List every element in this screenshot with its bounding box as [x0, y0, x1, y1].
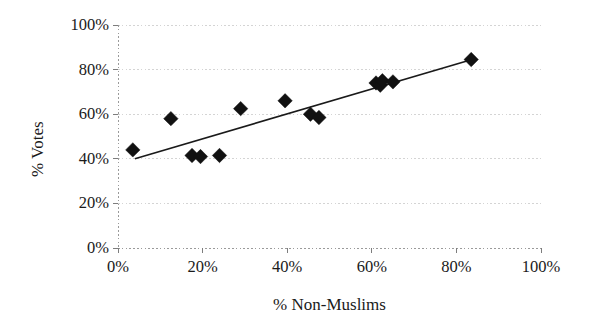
- scatter-chart: 0%20%40%60%80%100% 0%20%40%60%80%100% % …: [0, 0, 592, 327]
- data-point-marker: [464, 52, 478, 66]
- trend-line: [135, 58, 476, 158]
- data-markers: [126, 52, 479, 163]
- trend-line-path: [135, 58, 476, 158]
- y-tick-label-100: 100%: [71, 15, 110, 35]
- data-point-marker: [212, 148, 226, 162]
- x-tick-label-80: 80%: [416, 257, 496, 277]
- x-tick-label-100: 100%: [501, 257, 581, 277]
- data-point-marker: [126, 143, 140, 157]
- data-point-marker: [386, 75, 400, 89]
- y-tick-label-40: 40%: [79, 149, 109, 169]
- y-tick-label-60: 60%: [79, 104, 109, 124]
- x-tick-label-60: 60%: [332, 257, 412, 277]
- x-tick-label-20: 20%: [163, 257, 243, 277]
- data-point-marker: [233, 101, 247, 115]
- data-point-marker: [164, 111, 178, 125]
- y-tick-label-0: 0%: [87, 238, 109, 258]
- data-point-marker: [278, 94, 292, 108]
- y-axis-title: % Votes: [28, 121, 48, 177]
- x-tick-label-40: 40%: [247, 257, 327, 277]
- y-tick-label-20: 20%: [79, 193, 109, 213]
- y-tick-label-80: 80%: [79, 60, 109, 80]
- x-axis-title: % Non-Muslims: [0, 295, 592, 315]
- x-tick-label-0: 0%: [78, 257, 158, 277]
